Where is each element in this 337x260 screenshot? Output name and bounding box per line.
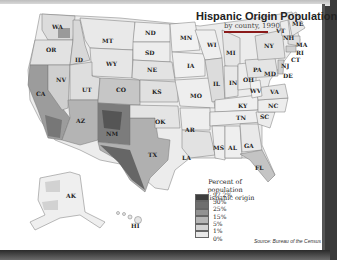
- svg-text:MT: MT: [102, 37, 114, 44]
- legend-label: 50%: [213, 198, 226, 205]
- svg-text:NE: NE: [147, 66, 157, 73]
- svg-text:UT: UT: [82, 86, 92, 93]
- svg-text:CO: CO: [116, 86, 126, 93]
- svg-text:IA: IA: [187, 62, 195, 69]
- legend-label: 5%: [213, 220, 223, 227]
- svg-text:LA: LA: [182, 154, 191, 161]
- svg-text:FL: FL: [255, 164, 264, 171]
- svg-text:OR: OR: [46, 46, 57, 53]
- svg-text:MD: MD: [264, 70, 276, 77]
- svg-text:AL: AL: [227, 144, 238, 151]
- legend-label: 25%: [213, 205, 226, 212]
- svg-text:NM: NM: [106, 130, 118, 137]
- svg-text:SD: SD: [145, 49, 155, 56]
- svg-text:NV: NV: [56, 76, 66, 83]
- svg-text:MN: MN: [180, 34, 193, 41]
- svg-text:VA: VA: [269, 88, 279, 95]
- legend-swatch: [195, 201, 209, 208]
- svg-text:ND: ND: [145, 29, 156, 36]
- svg-text:IL: IL: [213, 80, 221, 87]
- legend-label: 0%: [213, 235, 223, 242]
- map-title: Hispanic Origin Population: [196, 10, 337, 22]
- legend-label: 15%: [213, 213, 226, 220]
- title-underline: [224, 31, 268, 33]
- svg-text:WY: WY: [105, 60, 118, 67]
- source-note: Source: Bureau of the Census: [254, 238, 321, 244]
- us-choropleth-map: WAORCA NVIDMT WYUTAZ CONM NDSDNE KSOKTX …: [0, 4, 322, 250]
- svg-text:TN: TN: [236, 114, 246, 121]
- svg-text:SC: SC: [260, 113, 269, 120]
- legend-label: 97.2%: [213, 191, 232, 198]
- svg-text:MS: MS: [213, 144, 224, 151]
- svg-text:NC: NC: [268, 102, 278, 109]
- svg-text:KS: KS: [152, 88, 162, 95]
- svg-text:NY: NY: [264, 42, 274, 49]
- bottom-strip: [0, 250, 330, 260]
- svg-text:MA: MA: [296, 41, 308, 48]
- svg-text:DE: DE: [283, 72, 293, 79]
- svg-text:WA: WA: [51, 23, 63, 30]
- svg-text:MO: MO: [190, 92, 202, 99]
- svg-text:WI: WI: [206, 41, 217, 48]
- map-subtitle: by county, 1990: [224, 22, 280, 30]
- legend-swatch: [195, 231, 209, 238]
- svg-text:TX: TX: [148, 151, 157, 158]
- svg-text:NH: NH: [283, 34, 294, 41]
- svg-text:HI: HI: [131, 222, 140, 229]
- legend-swatch: [195, 209, 209, 216]
- legend-swatch: [195, 224, 209, 231]
- svg-text:GA: GA: [244, 142, 254, 149]
- legend-swatch: [195, 194, 209, 201]
- svg-text:KY: KY: [238, 102, 248, 109]
- legend: 97.2% 50% 25% 15% 5% 1% 0%: [195, 194, 232, 246]
- legend-swatch: [195, 216, 209, 223]
- svg-text:AR: AR: [184, 126, 196, 133]
- svg-text:PA: PA: [253, 66, 262, 73]
- svg-text:ID: ID: [75, 56, 83, 63]
- legend-label: 1%: [213, 227, 223, 234]
- svg-text:RI: RI: [296, 49, 304, 56]
- svg-text:OH: OH: [243, 76, 254, 83]
- svg-text:OK: OK: [155, 118, 166, 125]
- svg-text:WV: WV: [249, 87, 262, 94]
- svg-text:CT: CT: [291, 56, 301, 63]
- svg-text:CA: CA: [36, 90, 46, 97]
- legend-item: 0%: [195, 238, 232, 245]
- svg-text:MI: MI: [226, 49, 236, 56]
- svg-text:AZ: AZ: [75, 117, 86, 124]
- svg-text:AK: AK: [65, 192, 77, 199]
- svg-text:NJ: NJ: [281, 62, 289, 70]
- svg-text:IN: IN: [229, 79, 238, 86]
